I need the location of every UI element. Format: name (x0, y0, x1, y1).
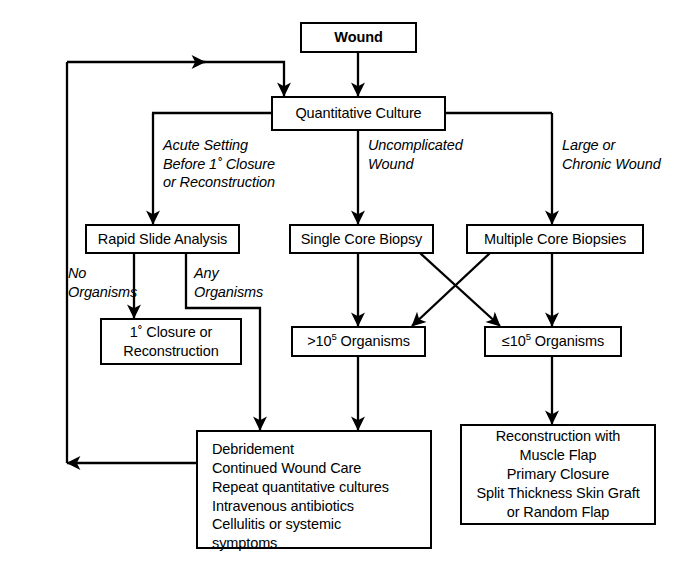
node-wound-label: Wound (334, 28, 382, 47)
node-low-organisms-suffix: Organisms (531, 333, 604, 349)
node-quantitative-culture-label: Quantitative Culture (295, 104, 421, 123)
node-reconstruction-line-2: Primary Closure (507, 465, 609, 484)
node-high-organisms[interactable]: >105 Organisms (291, 326, 426, 357)
edge-label-no-organisms-line-0: No (68, 264, 137, 283)
node-rapid-slide-analysis[interactable]: Rapid Slide Analysis (85, 224, 240, 254)
node-high-organisms-suffix: Organisms (337, 333, 410, 349)
node-high-organisms-prefix: >10 (307, 333, 331, 349)
node-single-core-biopsy[interactable]: Single Core Biopsy (289, 224, 434, 254)
node-debridement-line-0: Debridement (212, 440, 294, 459)
edge-label-any-organisms: Any Organisms (194, 264, 263, 301)
node-reconstruction-line-3: Split Thickness Skin Graft (476, 484, 639, 503)
node-reconstruction-line-0: Reconstruction with (496, 427, 621, 446)
edge-label-uncomplicated-wound-line-1: Wound (368, 155, 463, 174)
edge-label-large-chronic-wound-line-0: Large or (562, 136, 661, 155)
edge-label-uncomplicated-wound: Uncomplicated Wound (368, 136, 463, 173)
node-reconstruction[interactable]: Reconstruction with Muscle Flap Primary … (460, 424, 656, 525)
node-reconstruction-line-4: or Random Flap (507, 503, 610, 522)
edge-label-no-organisms-line-1: Organisms (68, 283, 137, 302)
node-multiple-core-biopsies[interactable]: Multiple Core Biopsies (466, 224, 644, 254)
edge-label-acute-setting-line-0: Acute Setting (163, 136, 275, 155)
node-primary-closure-line2: Reconstruction (123, 342, 218, 361)
node-low-organisms-prefix: ≤10 (502, 333, 526, 349)
node-debridement-line-4: Cellulitis or systemic (212, 515, 341, 534)
edge-feedback-top-into-culture (196, 62, 284, 96)
node-low-organisms-label: ≤105 Organisms (502, 332, 604, 351)
node-debridement-line-5: symptoms (212, 534, 277, 553)
node-rapid-slide-analysis-label: Rapid Slide Analysis (98, 230, 227, 249)
edge-label-acute-setting: Acute Setting Before 1˚ Closure or Recon… (163, 136, 275, 192)
node-primary-closure[interactable]: 1˚ Closure or Reconstruction (100, 318, 242, 365)
edge-label-large-chronic-wound: Large or Chronic Wound (562, 136, 661, 173)
node-debridement-line-2: Repeat quantitative cultures (212, 478, 389, 497)
edge-label-any-organisms-line-0: Any (194, 264, 263, 283)
node-wound[interactable]: Wound (300, 22, 417, 53)
edge-label-uncomplicated-wound-line-0: Uncomplicated (368, 136, 463, 155)
node-single-core-biopsy-label: Single Core Biopsy (301, 230, 423, 249)
edge-label-any-organisms-line-1: Organisms (194, 283, 263, 302)
edge-multiple-core-to-high-cross (412, 253, 490, 326)
node-reconstruction-line-1: Muscle Flap (519, 446, 596, 465)
node-debridement-line-1: Continued Wound Care (212, 459, 361, 478)
edge-label-no-organisms: No Organisms (68, 264, 137, 301)
edge-label-acute-setting-line-1: Before 1˚ Closure (163, 155, 275, 174)
node-primary-closure-line1: 1˚ Closure or (130, 323, 213, 342)
edge-label-acute-setting-line-2: or Reconstruction (163, 173, 275, 192)
node-debridement-line-3: Intravenous antibiotics (212, 497, 354, 516)
node-quantitative-culture[interactable]: Quantitative Culture (271, 96, 446, 131)
node-low-organisms[interactable]: ≤105 Organisms (484, 326, 622, 357)
edge-label-large-chronic-wound-line-1: Chronic Wound (562, 155, 661, 174)
flowchart-canvas: Wound Quantitative Culture Rapid Slide A… (0, 0, 691, 577)
node-high-organisms-label: >105 Organisms (307, 332, 410, 351)
node-debridement[interactable]: Debridement Continued Wound Care Repeat … (196, 430, 432, 549)
edge-single-core-to-low-cross (420, 253, 500, 326)
node-multiple-core-biopsies-label: Multiple Core Biopsies (484, 230, 626, 249)
